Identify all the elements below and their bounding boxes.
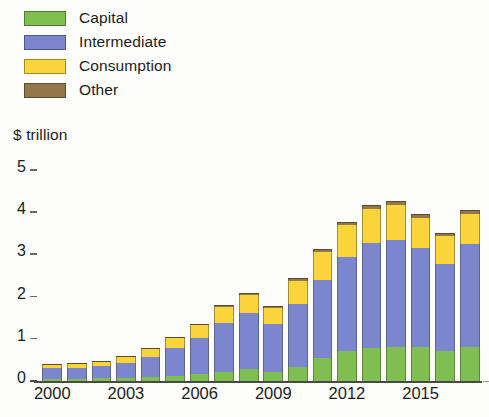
bar-2012[interactable]: [337, 222, 357, 381]
bar-segment-2017-consumption: [460, 214, 480, 244]
legend-item-consumption: Consumption: [24, 54, 171, 78]
bar-2005[interactable]: [165, 337, 185, 381]
bar-2014[interactable]: [386, 201, 406, 381]
bar-segment-2003-intermediate: [116, 363, 136, 378]
bar-segment-2011-intermediate: [313, 280, 333, 358]
bar-segment-2013-capital: [362, 348, 382, 381]
bar-segment-2014-consumption: [386, 205, 406, 240]
bar-segment-2006-consumption: [190, 325, 210, 338]
y-tick-label-5: 5: [17, 159, 26, 175]
bar-segment-2017-capital: [460, 347, 480, 381]
bar-2007[interactable]: [214, 305, 234, 381]
bar-2015[interactable]: [411, 214, 431, 381]
bar-segment-2015-consumption: [411, 218, 431, 248]
y-tick-label-0: 0: [17, 370, 26, 386]
x-tick-label-2015: 2015: [402, 385, 439, 402]
x-tick-label-2006: 2006: [181, 385, 218, 402]
legend-swatch-other: [24, 83, 66, 98]
bar-2006[interactable]: [190, 324, 210, 381]
bar-segment-2010-consumption: [288, 281, 308, 304]
legend-label-consumption: Consumption: [79, 58, 171, 74]
bar-segment-2003-capital: [116, 378, 136, 381]
bar-segment-2008-capital: [239, 369, 259, 381]
legend-item-intermediate: Intermediate: [24, 30, 171, 54]
bar-segment-2009-consumption: [263, 308, 283, 325]
y-tick-mark-2: [30, 296, 37, 298]
legend-swatch-capital: [24, 11, 66, 26]
bar-segment-2002-intermediate: [92, 366, 112, 378]
legend-label-other: Other: [79, 82, 118, 98]
bar-segment-2016-intermediate: [435, 264, 455, 351]
bar-segment-2000-intermediate: [42, 368, 62, 379]
bar-segment-2004-intermediate: [141, 357, 161, 378]
bar-2010[interactable]: [288, 278, 308, 381]
bar-segment-2007-consumption: [214, 307, 234, 323]
bar-2016[interactable]: [435, 233, 455, 381]
bar-segment-2009-intermediate: [263, 324, 283, 371]
bar-segment-2005-capital: [165, 376, 185, 381]
legend-item-other: Other: [24, 78, 171, 102]
y-tick-mark-4: [30, 211, 37, 213]
x-tick-label-2012: 2012: [329, 385, 366, 402]
bar-segment-2011-capital: [313, 358, 333, 381]
bar-segment-2004-consumption: [141, 349, 161, 356]
bar-segment-2009-capital: [263, 372, 283, 381]
bar-2017[interactable]: [460, 210, 480, 381]
bar-2002[interactable]: [92, 361, 112, 381]
right-edge-tick-0: [483, 381, 489, 382]
bar-segment-2000-capital: [42, 379, 62, 381]
x-axis-ticks: 200020032006200920122015: [40, 385, 482, 415]
bar-segment-2005-consumption: [165, 338, 185, 348]
y-tick-label-2: 2: [17, 286, 26, 302]
x-tick-label-2009: 2009: [255, 385, 292, 402]
bar-segment-2014-intermediate: [386, 240, 406, 348]
bar-segment-2013-intermediate: [362, 243, 382, 349]
bar-segment-2012-capital: [337, 351, 357, 381]
legend-item-capital: Capital: [24, 6, 171, 30]
chart-legend: Capital Intermediate Consumption Other: [24, 6, 171, 102]
y-tick-label-3: 3: [17, 243, 26, 259]
bar-2011[interactable]: [313, 249, 333, 381]
bar-segment-2008-intermediate: [239, 313, 259, 369]
bar-2000[interactable]: [42, 364, 62, 381]
bar-segment-2012-intermediate: [337, 257, 357, 352]
y-tick-mark-3: [30, 253, 37, 255]
legend-label-intermediate: Intermediate: [79, 34, 166, 50]
bar-segment-2008-consumption: [239, 295, 259, 313]
bar-segment-2002-capital: [92, 378, 112, 381]
bar-segment-2016-consumption: [435, 236, 455, 264]
bar-segment-2015-capital: [411, 347, 431, 381]
y-tick-mark-0: [30, 380, 37, 382]
bar-2008[interactable]: [239, 293, 259, 381]
x-axis-line: [34, 381, 482, 383]
bar-segment-2007-capital: [214, 372, 234, 381]
bar-segment-2011-consumption: [313, 252, 333, 279]
bar-segment-2017-intermediate: [460, 244, 480, 347]
bar-2013[interactable]: [362, 205, 382, 381]
bar-2003[interactable]: [116, 356, 136, 381]
bar-group: [40, 170, 482, 381]
x-tick-label-2003: 2003: [108, 385, 145, 402]
bar-2001[interactable]: [67, 363, 87, 381]
plot-area: 012345 200020032006200920122015: [40, 170, 482, 381]
bar-segment-2016-capital: [435, 351, 455, 381]
bar-segment-2007-intermediate: [214, 323, 234, 372]
bar-segment-2006-capital: [190, 374, 210, 381]
bar-segment-2010-intermediate: [288, 304, 308, 367]
bar-segment-2001-intermediate: [67, 368, 87, 379]
bar-2009[interactable]: [263, 306, 283, 381]
bar-segment-2005-intermediate: [165, 348, 185, 376]
y-tick-label-4: 4: [17, 201, 26, 217]
bar-segment-2013-consumption: [362, 209, 382, 243]
bar-2004[interactable]: [141, 348, 161, 381]
bar-segment-2015-intermediate: [411, 248, 431, 347]
bar-segment-2010-capital: [288, 367, 308, 381]
bar-segment-2001-capital: [67, 379, 87, 381]
legend-label-capital: Capital: [79, 10, 128, 26]
y-tick-label-1: 1: [17, 328, 26, 344]
bar-segment-2004-capital: [141, 377, 161, 381]
y-tick-mark-5: [30, 169, 37, 171]
y-tick-mark-1: [30, 338, 37, 340]
bar-segment-2012-consumption: [337, 225, 357, 257]
